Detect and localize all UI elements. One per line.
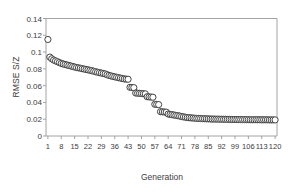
x-tick-label: 113 xyxy=(256,142,268,151)
x-tick-label: 8 xyxy=(59,142,63,151)
x-tick-label: 78 xyxy=(191,142,199,151)
x-tick-label: 85 xyxy=(204,142,212,151)
x-tick-label: 29 xyxy=(97,142,105,151)
x-tick-label: 36 xyxy=(111,142,119,151)
x-tick-label: 106 xyxy=(242,142,255,151)
x-tick-label: 71 xyxy=(177,142,185,151)
x-tick-label: 120 xyxy=(269,142,282,151)
x-tick-label: 57 xyxy=(151,142,159,151)
x-tick-label: 22 xyxy=(84,142,92,151)
rmse-vs-generation-chart: RMSE S/Z 00.020.040.060.080.10.120.14 18… xyxy=(0,0,292,195)
x-tick-label: 43 xyxy=(124,142,132,151)
x-tick-label: 50 xyxy=(137,142,145,151)
x-tick-label: 92 xyxy=(217,142,225,151)
x-tick-label: 15 xyxy=(70,142,78,151)
x-tick-label: 64 xyxy=(164,142,172,151)
x-tick-label: 99 xyxy=(231,142,239,151)
x-axis-title: Generation xyxy=(46,172,278,182)
x-tick-label: 1 xyxy=(46,142,50,151)
x-axis-tick-labels: 1815222936435057647178859299106113120 xyxy=(0,0,292,195)
